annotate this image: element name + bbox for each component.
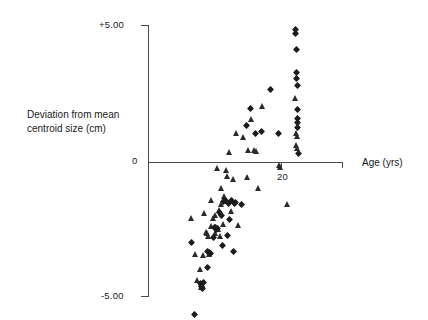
- data-point-diamond: [204, 264, 211, 271]
- data-point-diamond: [294, 82, 301, 89]
- data-point-triangle: [253, 148, 259, 154]
- data-point-triangle: [240, 134, 246, 140]
- data-point-triangle: [248, 116, 254, 122]
- scatter-plot: +5.00 0 -5.00 20 Age (yrs) Deviation fro…: [0, 0, 428, 320]
- data-point-triangle: [292, 95, 298, 101]
- data-point-triangle: [255, 185, 261, 191]
- data-point-triangle: [188, 215, 194, 221]
- data-point-diamond: [294, 106, 301, 113]
- data-points-layer: [0, 0, 428, 320]
- data-point-triangle: [192, 251, 198, 257]
- data-point-diamond: [275, 130, 282, 137]
- data-point-triangle: [226, 149, 232, 155]
- data-point-triangle: [235, 222, 241, 228]
- data-point-diamond: [243, 121, 250, 128]
- data-point-triangle: [230, 176, 236, 182]
- data-point-triangle: [277, 164, 283, 170]
- data-point-diamond: [292, 30, 299, 37]
- data-point-triangle: [233, 130, 239, 136]
- data-point-triangle: [244, 174, 250, 180]
- data-point-triangle: [218, 185, 224, 191]
- data-point-diamond: [267, 86, 274, 93]
- data-point-diamond: [224, 232, 231, 239]
- data-point-triangle: [197, 266, 203, 272]
- data-point-diamond: [219, 242, 226, 249]
- data-point-triangle: [228, 208, 234, 214]
- data-point-diamond: [188, 239, 195, 246]
- data-point-diamond: [238, 201, 245, 208]
- data-point-diamond: [230, 248, 237, 255]
- data-point-diamond: [218, 212, 225, 219]
- data-point-triangle: [220, 221, 226, 227]
- data-point-triangle: [217, 233, 223, 239]
- data-point-triangle: [294, 133, 300, 139]
- data-point-diamond: [191, 311, 198, 318]
- data-point-diamond: [293, 46, 300, 53]
- data-point-diamond: [295, 150, 302, 157]
- data-point-triangle: [214, 165, 220, 171]
- data-point-triangle: [284, 201, 290, 207]
- data-point-diamond: [247, 105, 254, 112]
- data-point-triangle: [208, 197, 214, 203]
- data-point-diamond: [226, 216, 233, 223]
- data-point-triangle: [259, 103, 265, 109]
- data-point-diamond: [258, 128, 265, 135]
- data-point-triangle: [201, 210, 207, 216]
